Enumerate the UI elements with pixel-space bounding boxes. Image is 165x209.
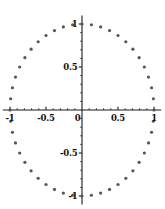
axes-group: [3, 15, 161, 204]
data-point: [18, 65, 21, 68]
data-point: [11, 86, 14, 89]
data-point: [150, 86, 153, 89]
data-point: [14, 141, 17, 144]
data-point: [9, 97, 12, 100]
data-point: [143, 151, 146, 154]
data-point: [14, 75, 17, 78]
data-point: [152, 97, 155, 100]
data-point: [150, 131, 153, 134]
data-point: [18, 151, 21, 154]
x-axis-tick-label: 0: [75, 114, 81, 123]
data-point: [53, 29, 56, 32]
data-point: [147, 141, 150, 144]
data-point: [62, 191, 65, 194]
y-axis-tick-label: 0.5: [62, 63, 78, 72]
x-axis-tick-label: 0.5: [111, 114, 125, 123]
data-point: [124, 177, 127, 180]
data-point: [62, 25, 65, 28]
x-axis-tick-label: -0.5: [37, 114, 55, 123]
data-point: [29, 48, 32, 51]
data-point: [37, 177, 40, 180]
data-point: [44, 183, 47, 186]
data-point: [108, 188, 111, 191]
data-point: [23, 56, 26, 59]
data-point: [53, 188, 56, 191]
scatter-plot-figure: -1-0.500.51-1-0.50.51: [0, 0, 165, 209]
data-point: [152, 108, 155, 111]
data-point: [131, 48, 134, 51]
y-axis-tick-label: 1: [71, 20, 78, 29]
data-point: [37, 40, 40, 43]
data-point: [80, 194, 83, 197]
data-point: [99, 25, 102, 28]
data-point: [138, 56, 141, 59]
data-point: [124, 40, 127, 43]
data-point: [29, 169, 32, 172]
data-point: [23, 161, 26, 164]
x-axis-tick-label: -1: [5, 114, 14, 123]
data-point: [147, 75, 150, 78]
data-point: [90, 23, 93, 26]
y-axis-tick-label: -0.5: [57, 149, 77, 158]
data-point: [131, 169, 134, 172]
data-point: [80, 22, 83, 25]
data-point: [90, 194, 93, 197]
data-point: [99, 191, 102, 194]
plot-canvas: [0, 0, 165, 209]
data-point: [116, 183, 119, 186]
data-point: [11, 131, 14, 134]
data-point: [108, 29, 111, 32]
data-point: [138, 161, 141, 164]
x-axis-tick-label: 1: [151, 114, 157, 123]
y-axis-tick-label: -1: [66, 192, 77, 201]
data-point: [8, 108, 11, 111]
data-point: [44, 34, 47, 37]
data-point: [116, 34, 119, 37]
data-point: [143, 65, 146, 68]
